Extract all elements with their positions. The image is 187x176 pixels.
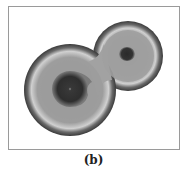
small-core xyxy=(119,47,135,61)
figure-caption: (b) xyxy=(0,153,187,167)
figure-image xyxy=(0,0,187,176)
